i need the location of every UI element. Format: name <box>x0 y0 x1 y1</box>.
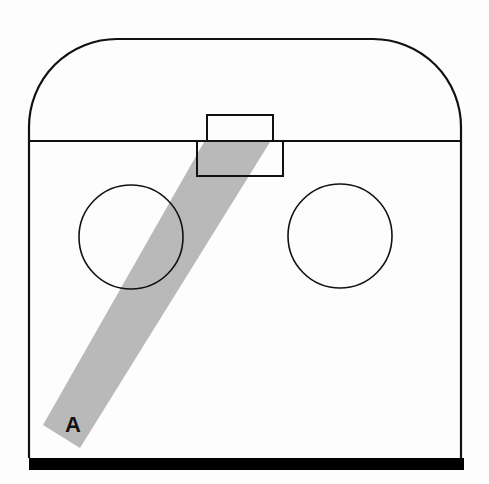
right-circle <box>288 184 392 288</box>
diagram-svg: A <box>0 0 489 484</box>
diagram-canvas: A <box>0 0 489 484</box>
band-label: A <box>65 412 81 437</box>
upper-box <box>207 115 273 141</box>
shaded-band-a <box>43 142 270 448</box>
floor-bar <box>29 458 464 470</box>
